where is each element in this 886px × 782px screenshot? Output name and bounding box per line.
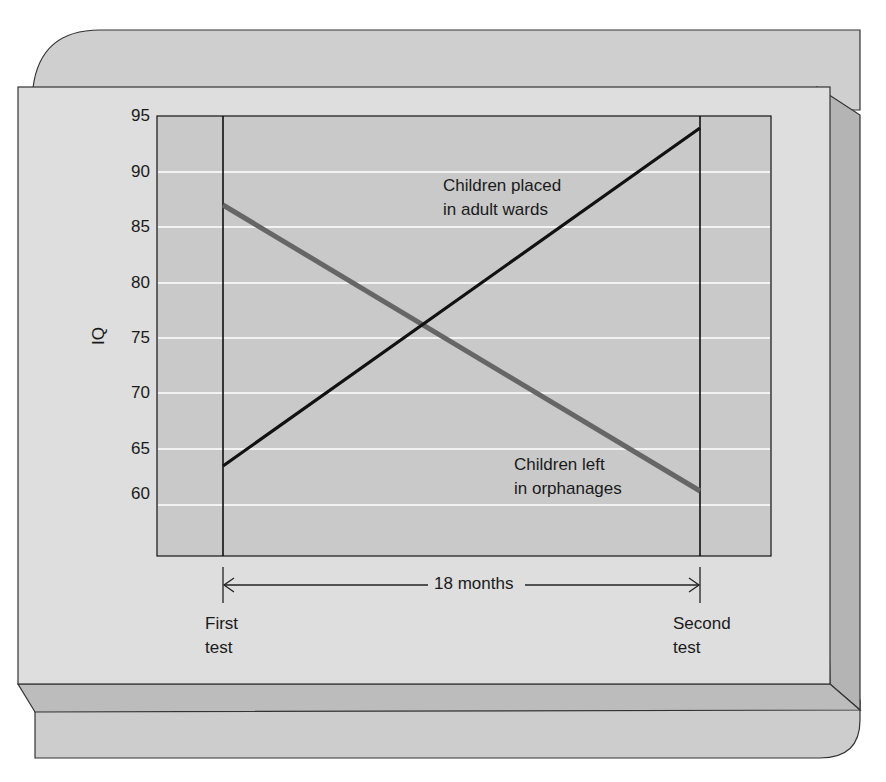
annotation-adult-wards-line1: Children placed xyxy=(443,174,561,198)
annotation-orphanages: Children left in orphanages xyxy=(514,453,622,501)
annotation-adult-wards: Children placed in adult wards xyxy=(443,174,561,222)
ytick-60: 60 xyxy=(110,484,150,504)
x-label-second-test-line1: Second xyxy=(673,612,731,636)
ytick-95: 95 xyxy=(110,106,150,126)
ytick-85: 85 xyxy=(110,217,150,237)
x-label-first-test-line1: First xyxy=(205,612,238,636)
x-label-first-test-line2: test xyxy=(205,636,238,660)
ytick-70: 70 xyxy=(110,383,150,403)
x-label-second-test: Second test xyxy=(673,612,731,660)
ytick-90: 90 xyxy=(110,162,150,182)
ytick-65: 65 xyxy=(110,439,150,459)
chart-figure: 95 90 85 80 75 70 65 60 IQ Children plac… xyxy=(0,0,886,782)
x-label-second-test-line2: test xyxy=(673,636,731,660)
annotation-orphanages-line2: in orphanages xyxy=(514,477,622,501)
annotation-adult-wards-line2: in adult wards xyxy=(443,198,561,222)
y-axis-label: IQ xyxy=(89,327,109,345)
bottom-bevel xyxy=(18,684,860,712)
ytick-80: 80 xyxy=(110,273,150,293)
ytick-75: 75 xyxy=(110,328,150,348)
interval-label: 18 months xyxy=(434,574,513,594)
x-label-first-test: First test xyxy=(205,612,238,660)
annotation-orphanages-line1: Children left xyxy=(514,453,622,477)
